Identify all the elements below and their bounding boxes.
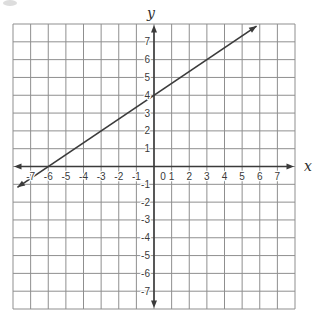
x-tick-label: 5 (239, 171, 245, 182)
x-tick-label: -5 (61, 171, 70, 182)
y-tick-label: -6 (141, 268, 150, 279)
y-tick-label: 7 (144, 36, 150, 47)
y-tick-label: 2 (144, 125, 150, 136)
x-tick-label: -6 (44, 171, 53, 182)
x-tick-label: 2 (186, 171, 192, 182)
x-axis-label: x (304, 158, 312, 174)
x-tick-label: 1 (169, 171, 175, 182)
x-tick-label: -1 (132, 171, 141, 182)
coordinate-plane: -7-6-5-4-3-2-112345677654321-1-2-3-4-5-6… (0, 0, 317, 320)
graph-figure: -7-6-5-4-3-2-112345677654321-1-2-3-4-5-6… (0, 0, 317, 320)
y-tick-label: 6 (144, 54, 150, 65)
y-tick-label: 5 (144, 72, 150, 83)
x-tick-label: 4 (222, 171, 228, 182)
x-tick-label: -4 (79, 171, 88, 182)
y-tick-label: -7 (141, 286, 150, 297)
figure-background (0, 0, 317, 320)
scan-artifact (3, 0, 17, 6)
y-tick-label: -3 (141, 214, 150, 225)
x-tick-label: 3 (204, 171, 210, 182)
x-tick-label: 6 (257, 171, 263, 182)
y-tick-label: 3 (144, 108, 150, 119)
x-tick-label: -7 (26, 171, 35, 182)
y-tick-label: -4 (141, 232, 150, 243)
x-tick-label: -3 (97, 171, 106, 182)
origin-label: 0 (160, 171, 166, 182)
y-tick-label: 1 (144, 143, 150, 154)
y-tick-label: -5 (141, 250, 150, 261)
y-tick-label: -2 (141, 197, 150, 208)
y-tick-label: -1 (141, 179, 150, 190)
x-tick-label: -2 (114, 171, 123, 182)
y-tick-label: 4 (144, 90, 150, 101)
x-tick-label: 7 (275, 171, 281, 182)
y-axis-label: y (146, 5, 156, 21)
